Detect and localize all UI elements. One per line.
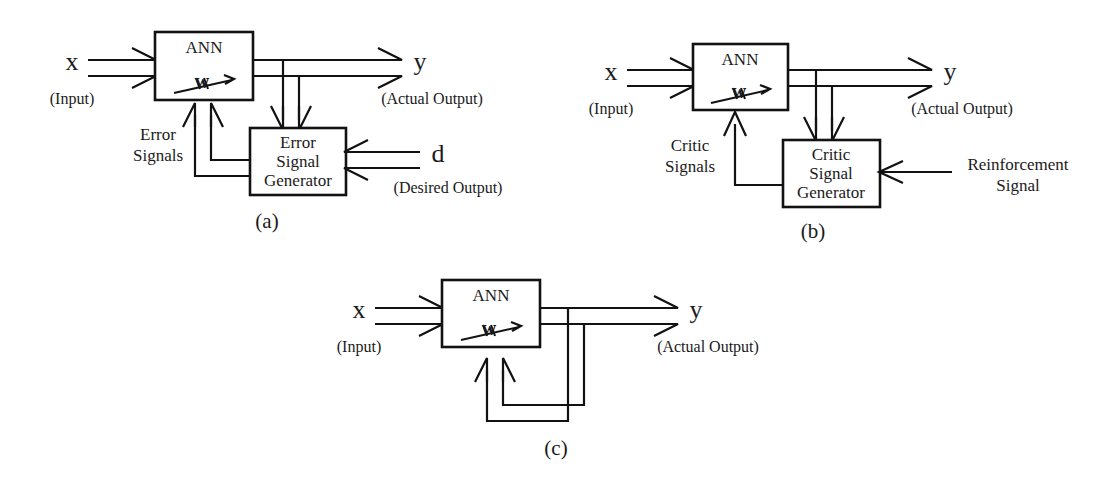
- panel-a-input-signal: [88, 48, 156, 88]
- panel-c-y-symbol: y: [690, 295, 703, 324]
- panel-c-actual-output-caption: (Actual Output): [657, 338, 759, 356]
- panel-b-reinforcement-line1: Reinforcement: [967, 155, 1068, 174]
- panel-a-weight-label: w: [195, 70, 210, 92]
- panel-b-output-tap: [804, 70, 844, 141]
- figure-root: x (Input) ANN w y (Actual Output): [0, 0, 1105, 483]
- panel-b-actual-output-caption: (Actual Output): [911, 100, 1013, 118]
- panel-b-reinforcement-line2: Signal: [996, 176, 1040, 195]
- panel-a-d-symbol: d: [432, 139, 445, 168]
- panel-b-input-signal: [627, 58, 694, 98]
- diagram-canvas: x (Input) ANN w y (Actual Output): [0, 0, 1105, 483]
- panel-a-esg-line2: Signal: [276, 152, 320, 171]
- panel-a-error-signals-feedback: [183, 103, 250, 176]
- panel-c-x-symbol: x: [353, 295, 366, 324]
- panel-c-caption: (c): [544, 436, 567, 460]
- panel-a-y-symbol: y: [414, 47, 427, 76]
- panel-c: x (Input) ANN w y (Actual Output): [337, 280, 759, 460]
- panel-b-y-symbol: y: [944, 57, 957, 86]
- panel-b-csg-line3: Generator: [797, 183, 865, 202]
- panel-b-critic-signals-line2: Signals: [665, 157, 715, 176]
- panel-c-output-signal: [540, 296, 678, 336]
- panel-a-esg-line3: Generator: [264, 171, 332, 190]
- panel-a-ann-label: ANN: [186, 38, 223, 57]
- panel-b-caption: (b): [801, 219, 826, 243]
- panel-b-reinforcement-signal: [879, 161, 952, 183]
- panel-b-x-symbol: x: [605, 57, 618, 86]
- panel-a-desired-output-signal: [344, 140, 420, 180]
- panel-a-caption: (a): [255, 209, 278, 233]
- panel-a-x-symbol: x: [66, 47, 79, 76]
- panel-a-output-signal: [253, 48, 402, 88]
- panel-a-output-tap: [271, 60, 311, 130]
- panel-b: x (Input) ANN w y (Actual Output): [589, 44, 1069, 243]
- panel-c-ann-label: ANN: [473, 286, 510, 305]
- panel-a-desired-output-caption: (Desired Output): [394, 179, 503, 197]
- panel-b-csg-line2: Signal: [809, 164, 853, 183]
- panel-b-critic-signals-line1: Critic: [671, 136, 710, 155]
- panel-a: x (Input) ANN w y (Actual Output): [50, 32, 503, 233]
- panel-a-input-caption: (Input): [50, 90, 94, 108]
- panel-b-weight-label: w: [732, 80, 747, 102]
- panel-b-csg-line1: Critic: [812, 145, 851, 164]
- panel-a-error-signals-line1: Error: [140, 125, 176, 144]
- panel-a-esg-line1: Error: [280, 133, 316, 152]
- panel-a-error-signals-line2: Signals: [133, 146, 183, 165]
- panel-c-weight-label: w: [482, 317, 497, 339]
- panel-a-actual-output-caption: (Actual Output): [381, 90, 483, 108]
- panel-c-input-signal: [375, 296, 443, 336]
- panel-b-ann-label: ANN: [722, 50, 759, 69]
- panel-b-output-signal: [788, 58, 932, 98]
- panel-b-input-caption: (Input): [589, 100, 633, 118]
- panel-b-critic-signals-feedback: [724, 112, 783, 185]
- panel-c-input-caption: (Input): [337, 338, 381, 356]
